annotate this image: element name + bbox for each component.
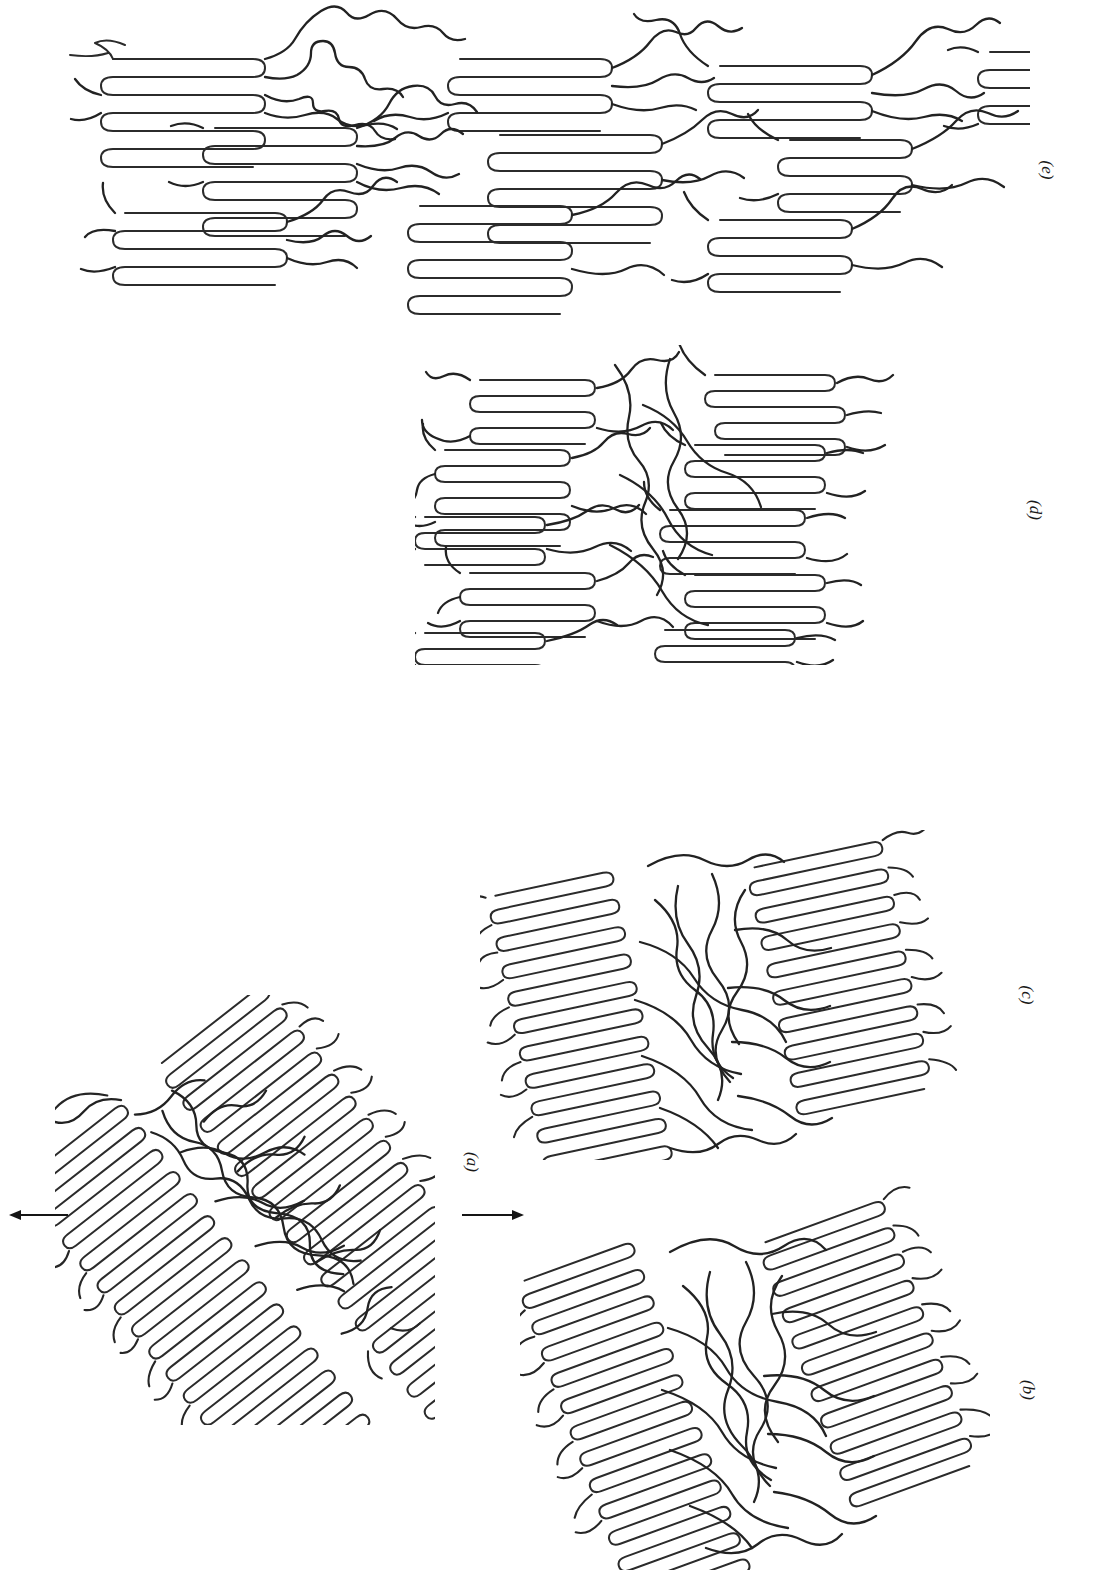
panel-c-label: (c) bbox=[1017, 986, 1037, 1005]
arrow-right bbox=[458, 1198, 530, 1232]
arrow-left bbox=[6, 1198, 70, 1232]
lamellar-stack-a bbox=[55, 995, 435, 1425]
panel-a-drawing bbox=[55, 995, 435, 1425]
panel-e-drawing bbox=[30, 0, 1030, 320]
panel-c bbox=[480, 830, 980, 1160]
panel-d bbox=[415, 345, 975, 665]
amorphous-network-c bbox=[635, 854, 832, 1152]
panel-d-label: (d) bbox=[1025, 500, 1045, 520]
arrow-right-icon bbox=[458, 1198, 530, 1232]
microfibril-row-1 bbox=[70, 6, 1030, 167]
block-row-2 bbox=[415, 423, 865, 546]
amorphous-network-b bbox=[662, 1239, 876, 1553]
microfibril-row-3 bbox=[81, 174, 952, 314]
arrow-left-icon bbox=[6, 1198, 70, 1232]
lamella-right-b bbox=[755, 1184, 990, 1509]
block-row-1 bbox=[422, 345, 893, 455]
panel-e bbox=[30, 0, 1030, 320]
figure-canvas: (e) bbox=[0, 0, 1093, 1587]
lamella-right-c bbox=[745, 830, 980, 1116]
panel-e-label: (e) bbox=[1037, 161, 1057, 180]
panel-a-label: (a) bbox=[462, 1152, 482, 1172]
block-row-4 bbox=[428, 547, 863, 639]
panel-d-drawing bbox=[415, 345, 975, 665]
panel-b-label: (b) bbox=[1018, 1380, 1038, 1400]
amorphous-interlayer-a bbox=[55, 995, 435, 1425]
panel-a bbox=[55, 995, 435, 1425]
panel-b bbox=[520, 1180, 990, 1570]
panel-c-drawing bbox=[480, 830, 980, 1160]
lamella-left-c bbox=[480, 866, 682, 1160]
panel-b-drawing bbox=[520, 1180, 990, 1570]
